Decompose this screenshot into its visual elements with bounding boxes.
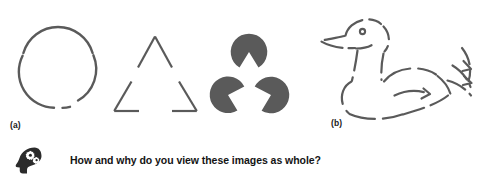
duck-head-back	[384, 27, 389, 52]
duck-breast	[342, 82, 352, 114]
triangle-corner-bl-up	[114, 82, 131, 112]
gestalt-closure-figure: (a) (b) How and why do you view these im…	[0, 0, 490, 180]
duck-neck-back	[381, 54, 383, 81]
kanizsa-disc-bottom-left	[210, 77, 245, 114]
duck-wing-feather-tip	[422, 89, 431, 99]
broken-triangle	[114, 37, 197, 112]
duck-beak-upper	[322, 36, 345, 41]
prompt-text: How and why do you view these images as …	[70, 154, 321, 166]
duck-belly-waterline	[350, 114, 403, 119]
circle-arc-right	[78, 55, 96, 100]
duck-chin-line	[356, 43, 375, 49]
duck-waterline-right	[403, 96, 448, 115]
duck-wing-trailing	[438, 76, 451, 94]
kanizsa-disc-bottom-right	[255, 77, 290, 114]
panel-label-b: (b)	[331, 118, 342, 128]
duck-wing-feather-detail	[395, 91, 429, 95]
dashed-duck-outline	[322, 19, 472, 119]
duck-beak-lower	[322, 42, 356, 49]
duck-neck-front	[352, 51, 358, 81]
duck-eye	[360, 29, 365, 34]
circle-arc-top	[23, 27, 92, 53]
head-with-gears-icon	[14, 144, 46, 176]
triangle-apex-right-limb	[155, 37, 172, 68]
panel-label-a: (a)	[10, 120, 21, 130]
kanizsa-disc-top	[231, 34, 268, 68]
triangle-corner-br-up	[179, 82, 197, 112]
duck-wing-top	[384, 68, 436, 81]
kanizsa-triangle	[210, 34, 290, 114]
triangle-apex-left-limb	[138, 37, 155, 68]
prompt-row: How and why do you view these images as …	[14, 144, 321, 176]
broken-circle	[19, 27, 96, 108]
circle-arc-bottom-right	[63, 107, 71, 108]
circle-arc-left	[19, 56, 54, 108]
